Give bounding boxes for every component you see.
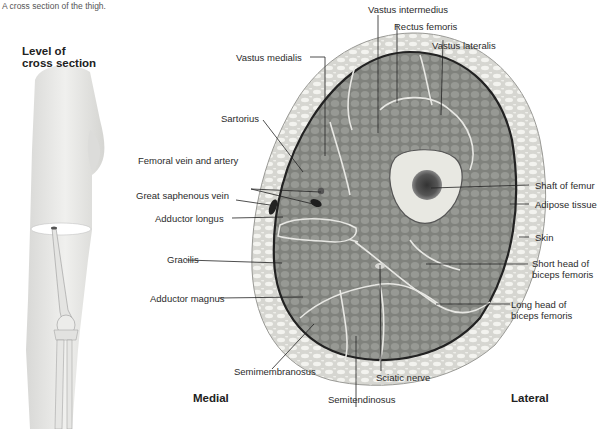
label-medial: Medial [193, 392, 229, 404]
label-gracilis: Gracilis [167, 254, 199, 265]
label-vastus-intermedius: Vastus intermedius [368, 4, 448, 15]
cross-section [252, 33, 546, 385]
label-femoral-vein-artery: Femoral vein and artery [138, 155, 238, 166]
inset-title: Level of cross section [22, 45, 96, 69]
label-rectus-femoris: Rectus femoris [394, 21, 457, 32]
label-semimembranosus: Semimembranosus [234, 366, 316, 377]
leg-inset [26, 65, 104, 429]
label-shaft-of-femur: Shaft of femur [535, 180, 595, 191]
label-sciatic-nerve: Sciatic nerve [376, 372, 430, 383]
label-great-saphenous-vein: Great saphenous vein [136, 190, 229, 201]
label-skin: Skin [535, 232, 553, 243]
label-long-head-line1: Long head of [511, 299, 572, 310]
label-vastus-lateralis: Vastus lateralis [432, 40, 496, 51]
label-short-head-line2: biceps femoris [532, 269, 593, 280]
label-semitendinosus: Semitendinosus [328, 394, 396, 405]
label-short-head-biceps: Short head of biceps femoris [532, 258, 593, 280]
label-long-head-biceps: Long head of biceps femoris [511, 299, 572, 321]
label-adductor-magnus: Adductor magnus [150, 293, 224, 304]
label-long-head-line2: biceps femoris [511, 310, 572, 321]
label-short-head-line1: Short head of [532, 258, 593, 269]
inset-title-line1: Level of [22, 45, 96, 57]
figure-caption: A cross section of the thigh. [2, 1, 106, 11]
label-adipose-tissue: Adipose tissue [535, 199, 597, 210]
inset-title-line2: cross section [22, 57, 96, 69]
label-adductor-longus: Adductor longus [155, 213, 224, 224]
label-lateral: Lateral [511, 392, 549, 404]
label-vastus-medialis: Vastus medialis [236, 52, 302, 63]
label-sartorius: Sartorius [221, 113, 259, 124]
